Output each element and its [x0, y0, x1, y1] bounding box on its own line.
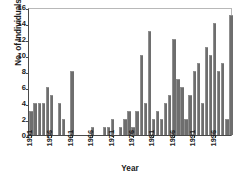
bar — [229, 15, 232, 135]
bar — [160, 119, 163, 135]
bar — [46, 87, 49, 135]
bar — [213, 23, 216, 135]
y-axis-tick-mark — [26, 41, 29, 42]
bar — [193, 71, 196, 135]
bar — [148, 31, 151, 135]
y-axis-tick-label: 16 — [12, 4, 26, 12]
bar — [62, 119, 65, 135]
y-axis-tick-mark — [26, 105, 29, 106]
bar — [209, 55, 212, 135]
bar — [197, 63, 200, 135]
bar — [58, 103, 61, 135]
y-axis-tick-mark — [26, 89, 29, 90]
y-axis-tick-label: 12 — [12, 36, 26, 44]
bar — [176, 79, 179, 135]
bar — [70, 71, 73, 135]
bar — [103, 127, 106, 135]
x-axis-tick-label: 1966 — [87, 130, 94, 154]
bar — [217, 71, 220, 135]
bar — [205, 47, 208, 135]
y-axis-tick-label: 0 — [12, 132, 26, 140]
y-axis-tick-label: 8 — [12, 68, 26, 76]
bar — [168, 95, 171, 135]
x-axis-tick-label: 1986 — [169, 130, 176, 154]
bar — [225, 119, 228, 135]
y-axis-tick-mark — [26, 9, 29, 10]
y-axis-tick-label: 10 — [12, 52, 26, 60]
bar-chart: No. of Individuals 0246810121416 1951195… — [0, 0, 237, 177]
y-axis-tick-mark — [26, 25, 29, 26]
bar — [38, 103, 41, 135]
x-axis-tick-labels: 1951195619611966197119761981198619911996 — [28, 138, 232, 162]
bars-layer — [29, 9, 231, 135]
x-axis-tick-label: 1981 — [148, 130, 155, 154]
x-axis-tick-label: 1951 — [26, 130, 33, 154]
x-axis-title: Year — [28, 164, 232, 173]
bar — [201, 103, 204, 135]
y-axis-tick-label: 14 — [12, 20, 26, 28]
bar — [156, 111, 159, 135]
y-axis-tick-label: 4 — [12, 100, 26, 108]
bar — [119, 127, 122, 135]
bar — [180, 87, 183, 135]
y-axis-tick-labels: 0246810121416 — [12, 8, 26, 136]
bar — [188, 95, 191, 135]
x-axis-tick-label: 1971 — [108, 130, 115, 154]
plot-area — [28, 8, 232, 136]
x-axis-tick-label: 1996 — [210, 130, 217, 154]
bar — [172, 39, 175, 135]
y-axis-tick-mark — [26, 121, 29, 122]
bar — [164, 103, 167, 135]
y-axis-tick-mark — [26, 73, 29, 74]
y-axis-tick-mark — [26, 57, 29, 58]
x-axis-tick-label: 1956 — [46, 130, 53, 154]
x-axis-tick-label: 1976 — [128, 130, 135, 154]
bar — [221, 63, 224, 135]
y-axis-tick-label: 2 — [12, 116, 26, 124]
x-axis-tick-label: 1991 — [189, 130, 196, 154]
bar — [50, 95, 53, 135]
y-axis-tick-label: 6 — [12, 84, 26, 92]
bar — [140, 55, 143, 135]
x-axis-tick-label: 1961 — [67, 130, 74, 154]
